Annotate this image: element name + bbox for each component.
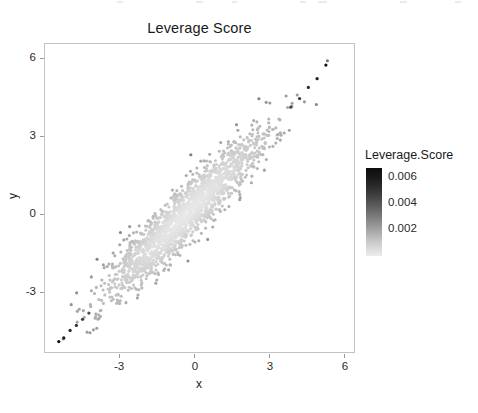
x-tick-mark xyxy=(194,354,195,358)
x-axis-label: x xyxy=(184,377,214,391)
y-tick-label: 6 xyxy=(14,51,36,63)
y-axis-label: y xyxy=(6,185,20,207)
legend-tick-label: 0.002 xyxy=(388,222,417,234)
y-tick-mark xyxy=(40,214,44,215)
chart-title: Leverage Score xyxy=(44,20,355,36)
y-tick-mark xyxy=(40,136,44,137)
x-tick-mark xyxy=(119,354,120,358)
legend-tick-label: 0.004 xyxy=(388,196,417,208)
y-tick-mark xyxy=(40,292,44,293)
chart-page: Leverage Score 6 3 0 -3 -3 0 3 6 y x Lev… xyxy=(0,0,478,413)
x-tick-mark xyxy=(344,354,345,358)
x-tick-label: -3 xyxy=(105,360,133,372)
colorbar-gradient xyxy=(366,168,382,256)
y-tick-label: 3 xyxy=(14,129,36,141)
scatter-points-layer xyxy=(45,44,355,353)
capture-edge-artifact xyxy=(0,0,478,4)
x-tick-label: 0 xyxy=(181,360,209,372)
legend-title: Leverage.Score xyxy=(365,148,453,162)
x-tick-label: 3 xyxy=(256,360,284,372)
x-tick-label: 6 xyxy=(331,360,359,372)
y-tick-label: -3 xyxy=(12,285,36,297)
legend-tick-label: 0.006 xyxy=(388,170,417,182)
y-tick-mark xyxy=(40,58,44,59)
x-tick-mark xyxy=(269,354,270,358)
plot-panel xyxy=(44,43,355,353)
y-tick-label: 0 xyxy=(14,207,36,219)
